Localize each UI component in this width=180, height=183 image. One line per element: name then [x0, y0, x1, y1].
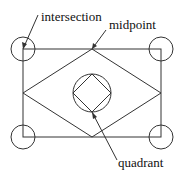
- quadrant-leader: [92, 112, 117, 160]
- quadrant-arrowhead: [92, 112, 97, 119]
- midpoint-label: midpoint: [109, 17, 156, 32]
- snap-diagram: intersection midpoint quadrant: [0, 0, 180, 183]
- intersection-arrowhead: [22, 42, 27, 49]
- quadrant-label: quadrant: [118, 155, 164, 170]
- intersection-label: intersection: [41, 9, 102, 24]
- midpoint-diamond: [23, 49, 161, 137]
- center-circle: [73, 74, 111, 112]
- diagram-drawing: intersection midpoint quadrant: [0, 0, 180, 183]
- outer-rectangle: [23, 49, 161, 137]
